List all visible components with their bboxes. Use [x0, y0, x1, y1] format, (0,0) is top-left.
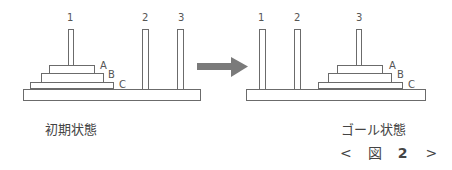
peg-label-2: 2 [142, 13, 148, 23]
disk-c [30, 82, 114, 89]
disk-label-b: B [397, 70, 404, 80]
right-arrow-icon [195, 55, 251, 79]
figure-label-text: 図 [368, 145, 382, 161]
peg-3 [356, 29, 362, 66]
peg-1 [68, 29, 74, 66]
figure-number: 2 [398, 145, 408, 161]
disk-c [318, 82, 403, 89]
peg-label-1: 1 [258, 13, 264, 23]
base [246, 89, 426, 101]
peg-label-3: 3 [178, 13, 184, 23]
goal-state-caption: ゴール状態 [341, 122, 406, 137]
peg-2 [142, 29, 149, 90]
base [23, 89, 201, 101]
figure-label: <図2> [340, 145, 437, 161]
figure-next-bracket: > [425, 145, 437, 161]
peg-2 [294, 29, 301, 90]
figure-prev-bracket: < [340, 145, 352, 161]
peg-label-1: 1 [67, 13, 73, 23]
peg-3 [177, 29, 184, 90]
initial-state-caption: 初期状態 [45, 122, 97, 137]
peg-1 [259, 29, 266, 90]
peg-label-3: 3 [356, 13, 362, 23]
disk-label-a: A [100, 61, 107, 71]
disk-label-a: A [389, 61, 396, 71]
peg-label-2: 2 [294, 13, 300, 23]
disk-label-b: B [108, 70, 115, 80]
